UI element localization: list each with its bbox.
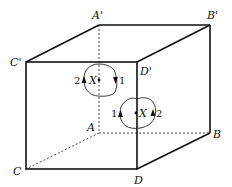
arrow-label-right: 2 — [156, 108, 162, 119]
edge-d-b — [137, 133, 210, 169]
loop-point-label: X — [88, 74, 98, 87]
arrow-label-left: 2 — [74, 75, 80, 86]
arrow-label-right: 1 — [119, 75, 125, 86]
cube-svg: X 2 1 X 1 2 A' B' C' D' A B C D — [0, 0, 232, 187]
vertex-label-a-prime: A' — [91, 9, 103, 22]
edge-a-prime-c-prime — [26, 25, 99, 62]
arrow-up-icon — [82, 76, 87, 83]
visible-edges — [26, 25, 210, 169]
arrow-up-icon — [118, 110, 123, 117]
vertex-label-d-prime: D' — [139, 65, 152, 78]
point-x-dot — [98, 79, 101, 82]
loop-point-label: X — [138, 107, 148, 120]
arrow-label-left: 1 — [111, 108, 117, 119]
cube-diagram: X 2 1 X 1 2 A' B' C' D' A B C D — [0, 0, 232, 187]
vertex-label-a: A — [86, 121, 95, 134]
vertex-label-c-prime: C' — [10, 56, 21, 69]
vertex-label-b-prime: B' — [206, 9, 218, 22]
loop-upper: X 2 1 — [74, 64, 125, 96]
loop-curve — [120, 98, 156, 129]
vertex-label-d: D — [133, 174, 143, 187]
vertex-label-c: C — [13, 165, 22, 178]
edge-a-c — [26, 133, 99, 169]
vertex-label-b: B — [212, 128, 221, 141]
edge-b-prime-d-prime — [137, 25, 210, 62]
arrow-up-icon — [151, 109, 156, 116]
point-x-dot — [135, 112, 138, 115]
